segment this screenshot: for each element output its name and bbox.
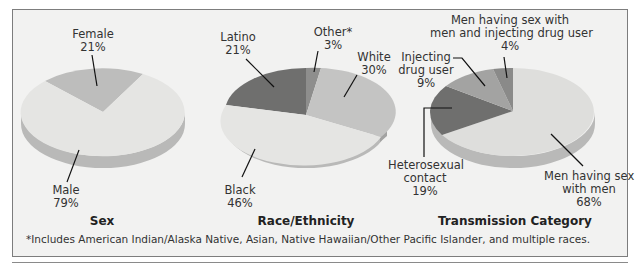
title-transmission-category: Transmission Category bbox=[438, 214, 588, 228]
footnote: *Includes American Indian/Alaska Native,… bbox=[26, 233, 590, 245]
label-male: Male 79% bbox=[41, 184, 91, 210]
label-white-pct: 30% bbox=[351, 64, 397, 77]
label-msm-pct: 68% bbox=[544, 196, 634, 209]
label-male-pct: 79% bbox=[41, 197, 91, 210]
label-idu-pct: 9% bbox=[398, 77, 454, 90]
label-msm: Men having sex with men 68% bbox=[544, 170, 634, 209]
label-female: Female 21% bbox=[68, 28, 118, 54]
label-latino: Latino 21% bbox=[213, 31, 263, 57]
label-latino-pct: 21% bbox=[213, 44, 263, 57]
label-msm-idu-pct: 4% bbox=[430, 40, 590, 53]
label-black-pct: 46% bbox=[215, 197, 265, 210]
label-other-pct: 3% bbox=[310, 39, 356, 52]
pie-sex bbox=[21, 55, 185, 182]
label-black: Black 46% bbox=[215, 184, 265, 210]
label-heterosexual: Heterosexual contact 19% bbox=[388, 159, 462, 198]
title-race-ethnicity: Race/Ethnicity bbox=[256, 214, 356, 228]
label-other: Other* 3% bbox=[310, 26, 356, 52]
label-hetero-pct: 19% bbox=[388, 185, 462, 198]
title-sex: Sex bbox=[72, 214, 132, 228]
label-msm-idu: Men having sex with men and injecting dr… bbox=[430, 14, 590, 53]
label-white: White 30% bbox=[351, 51, 397, 77]
label-female-pct: 21% bbox=[68, 41, 118, 54]
label-idu: Injecting drug user 9% bbox=[398, 51, 454, 90]
